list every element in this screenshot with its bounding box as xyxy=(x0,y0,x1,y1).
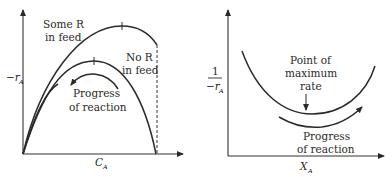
left-progress-label-line2: of reaction xyxy=(69,101,127,113)
lower-curve-label-line2: in feed xyxy=(122,64,159,76)
upper-curve-label-line2: in feed xyxy=(45,31,82,43)
left-plot: Some R in feed No R in feed Progress of … xyxy=(6,10,183,171)
right-progress-label-line1: Progress xyxy=(303,130,350,142)
right-plot: Point of maximum rate Progress of reacti… xyxy=(206,10,384,175)
upper-curve-label-line1: Some R xyxy=(43,18,85,30)
right-progress-label-line2: of reaction xyxy=(297,143,355,155)
diagram-canvas: Some R in feed No R in feed Progress of … xyxy=(0,0,392,177)
right-x-axis-subscript: A xyxy=(307,167,313,175)
annotation-line2: maximum xyxy=(285,67,337,79)
right-y-axis-numerator: 1 xyxy=(212,65,219,77)
left-x-axis-label: C xyxy=(95,156,103,168)
third-curve-initial xyxy=(23,84,58,154)
annotation-line3: rate xyxy=(300,80,322,92)
right-y-axis-subscript: A xyxy=(218,87,224,95)
left-y-axis-subscript: A xyxy=(18,78,24,86)
right-x-axis-label: X xyxy=(299,160,308,172)
annotation-line1: Point of xyxy=(290,54,332,66)
lower-curve-label-line1: No R xyxy=(126,51,154,63)
left-x-axis-subscript: A xyxy=(102,163,108,171)
left-progress-label-line1: Progress xyxy=(73,87,120,99)
